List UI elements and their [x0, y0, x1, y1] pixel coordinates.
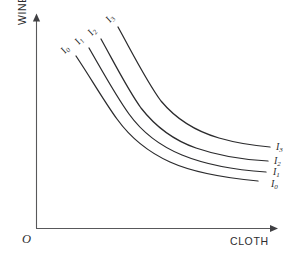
curve-label-right-i0: I0: [270, 178, 278, 191]
curve-label-right-i3: I3: [275, 141, 283, 154]
svg-text:I0: I0: [57, 43, 73, 58]
figure-canvas: I0 I1 I2 I3 I3: [0, 0, 300, 257]
indifference-curve-figure: I0 I1 I2 I3 I3: [0, 0, 300, 257]
x-axis-label: CLOTH: [230, 235, 269, 247]
curve-label-left-i3: I3: [102, 12, 118, 27]
x-axis-arrow-icon: [270, 225, 278, 232]
indifference-curve-i0: [76, 56, 258, 181]
y-axis-label: WINE: [16, 0, 28, 25]
vertical-axis: [33, 14, 40, 229]
horizontal-axis: [36, 225, 278, 232]
svg-text:I1: I1: [71, 34, 86, 48]
indifference-curve-i2: [101, 39, 268, 161]
curve-label-left-i0: I0: [57, 43, 73, 58]
curve-label-left-i2: I2: [84, 25, 100, 40]
curve-label-left-i1: I1: [71, 34, 86, 48]
curve-labels-right-group: I3 I2 I1 I0: [270, 141, 283, 191]
origin-label: O: [22, 232, 31, 246]
indifference-curve-i3: [118, 27, 270, 147]
curve-labels-left-group: I0 I1 I2 I3: [57, 12, 118, 58]
svg-text:I3: I3: [102, 12, 118, 27]
y-axis-arrow-icon: [33, 14, 40, 22]
svg-text:I2: I2: [84, 25, 100, 40]
indifference-curves-group: [76, 27, 270, 181]
